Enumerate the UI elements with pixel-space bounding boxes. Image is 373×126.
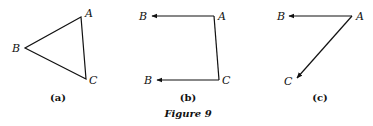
segment-a-c: [214, 16, 219, 80]
panel-label-a: (a): [50, 92, 66, 103]
panel-a: A B C (a): [11, 7, 98, 103]
point-label-c: C: [222, 74, 231, 87]
vector-a-to-c: [297, 16, 352, 78]
point-label-c: C: [284, 75, 293, 88]
point-label-b-bottom: B: [143, 74, 152, 87]
point-label-b: B: [276, 10, 285, 23]
panel-c: B A C (c): [276, 10, 364, 103]
point-label-c: C: [89, 74, 98, 87]
point-label-b: B: [11, 42, 20, 55]
figure-caption: Figure 9: [163, 108, 211, 119]
panel-label-b: (b): [180, 92, 196, 103]
point-label-a: A: [217, 10, 226, 23]
triangle-abc: [25, 17, 86, 79]
panel-b: B A B C (b): [138, 10, 231, 103]
figure-9-diagram: A B C (a) B A B C (b) B A C (c) Figure 9: [0, 0, 373, 126]
point-label-b-top: B: [138, 10, 147, 23]
point-label-a: A: [84, 7, 93, 20]
panel-label-c: (c): [312, 92, 328, 103]
point-label-a: A: [355, 10, 364, 23]
